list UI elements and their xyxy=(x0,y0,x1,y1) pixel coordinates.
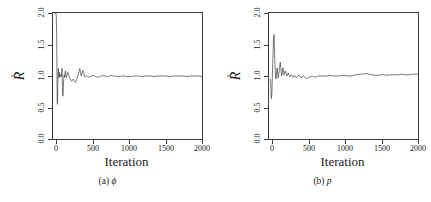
panel-b-caption-symbol: p xyxy=(327,176,332,186)
panel-a-subcaption: (a) ϕ xyxy=(0,176,215,186)
panel-b-ytick-label-05: 0.5 xyxy=(253,97,262,119)
hat-accent: ^ xyxy=(225,74,236,79)
panel-a-ytick-label-2: 2.0 xyxy=(37,2,46,24)
panel-a-caption-symbol: ϕ xyxy=(112,176,117,186)
panel-a-xtick-label-2000: 2000 xyxy=(187,144,217,153)
panel-a-trace-svg xyxy=(53,13,202,139)
panel-a-xtick-label-1000: 1000 xyxy=(114,144,144,153)
panel-b: ^R 2.0 1.5 1.0 0.5 0.0 0 500 1000 1500 2… xyxy=(215,0,430,202)
panel-b-caption-id: (b) xyxy=(313,176,324,186)
panel-b-xtick-label-1000: 1000 xyxy=(330,144,360,153)
panel-b-x-axis-label: Iteration xyxy=(215,154,430,170)
panel-b-trace-line xyxy=(270,34,418,98)
panel-b-xtick-label-500: 500 xyxy=(294,144,324,153)
panel-b-xtick-label-0: 0 xyxy=(257,144,287,153)
panel-a-ytick-label-1: 1.0 xyxy=(37,65,46,87)
panel-a-x-axis-label: Iteration xyxy=(0,154,215,170)
panel-a-ytick-label-05: 0.5 xyxy=(37,97,46,119)
hat-accent: ^ xyxy=(9,74,20,79)
panel-a-trace-line xyxy=(54,13,202,104)
panel-b-trace-svg xyxy=(269,13,418,139)
panel-b-ytick-label-15: 1.5 xyxy=(253,34,262,56)
panel-b-xtick-label-2000: 2000 xyxy=(403,144,431,153)
r-hat-symbol: ^R xyxy=(13,72,27,81)
panel-a-xtick-label-0: 0 xyxy=(41,144,71,153)
panel-a-xtick-label-500: 500 xyxy=(78,144,108,153)
figure-root: ^R 2.0 1.5 1.0 0.5 0.0 0 500 1000 1500 2… xyxy=(0,0,431,202)
panel-a-ytick-label-15: 1.5 xyxy=(37,34,46,56)
panel-a-plot-area xyxy=(52,12,203,140)
panel-a-caption-id: (a) xyxy=(99,176,110,186)
panel-b-subcaption: (b) p xyxy=(215,176,430,186)
panel-a-xtick-label-1500: 1500 xyxy=(151,144,181,153)
panel-b-plot-area xyxy=(268,12,419,140)
panel-b-ytick-label-1: 1.0 xyxy=(253,65,262,87)
panel-a: ^R 2.0 1.5 1.0 0.5 0.0 0 500 1000 1500 2… xyxy=(0,0,215,202)
panel-b-ytick-label-2: 2.0 xyxy=(253,2,262,24)
r-hat-symbol: ^R xyxy=(229,72,243,81)
panel-b-y-axis-label: ^R xyxy=(228,65,244,87)
panel-b-xtick-label-1500: 1500 xyxy=(367,144,397,153)
panel-a-y-axis-label: ^R xyxy=(12,65,28,87)
